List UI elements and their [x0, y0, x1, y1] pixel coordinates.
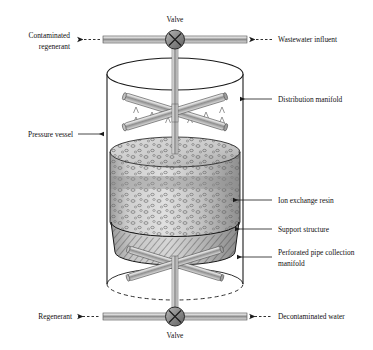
bottom-valve[interactable]	[166, 307, 185, 326]
regenerant-label: Regenerant	[38, 312, 73, 321]
distribution-hub	[172, 104, 178, 122]
contaminated-regenerant-label-line1: Contaminated	[29, 31, 71, 40]
valve-bottom-label: Valve	[167, 331, 185, 340]
diagram-canvas: Valve Valve Contaminated regenerant Wast…	[0, 0, 373, 350]
collection-manifold-label-line1: Perforated pipe collection	[278, 248, 355, 257]
ion-exchange-vessel-diagram: Valve Valve Contaminated regenerant Wast…	[0, 0, 373, 350]
pressure-vessel-label: Pressure vessel	[28, 130, 73, 139]
wastewater-influent-label: Wastewater influent	[278, 35, 338, 44]
top-inlet-riser	[172, 46, 178, 154]
distribution-manifold-label: Distribution manifold	[278, 95, 343, 104]
support-structure-label: Support structure	[278, 225, 330, 234]
decontaminated-water-label: Decontaminated water	[278, 312, 345, 321]
valve-top-label: Valve	[167, 15, 185, 24]
top-valve[interactable]	[166, 30, 185, 49]
ion-exchange-resin-label: Ion exchange resin	[278, 196, 334, 205]
collection-manifold-label-line2: manifold	[278, 259, 305, 268]
contaminated-regenerant-label-line2: regenerant	[39, 42, 71, 51]
